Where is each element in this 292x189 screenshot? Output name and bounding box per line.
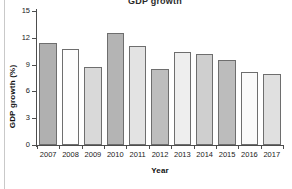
page-edge-rule	[4, 0, 5, 189]
x-tick-mark	[126, 145, 127, 149]
x-tick-label: 2016	[238, 151, 260, 159]
x-tick-mark	[238, 145, 239, 149]
bars-group	[37, 11, 283, 145]
x-axis-line	[36, 145, 284, 146]
x-tick-label: 2011	[126, 151, 148, 159]
x-tick-mark	[59, 145, 60, 149]
x-tick-mark	[216, 145, 217, 149]
x-tick-label: 2015	[216, 151, 238, 159]
y-tick-mark	[32, 38, 36, 39]
x-tick-label: 2008	[59, 151, 81, 159]
bar	[196, 54, 213, 145]
x-tick-mark	[171, 145, 172, 149]
y-tick-mark	[32, 145, 36, 146]
bar	[129, 46, 146, 145]
chart-figure: GDP growth 03691215 20072008200920102011…	[0, 0, 292, 189]
x-tick-mark	[261, 145, 262, 149]
y-tick-mark	[32, 118, 36, 119]
x-axis-label: Year	[36, 166, 284, 175]
bar	[84, 67, 101, 145]
x-tick-label: 2012	[149, 151, 171, 159]
y-tick-mark	[32, 11, 36, 12]
y-axis-label: GDP growth (%)	[8, 47, 17, 147]
y-tick-mark	[32, 65, 36, 66]
bar	[107, 33, 124, 145]
x-tick-mark	[283, 145, 284, 149]
bar	[263, 74, 280, 145]
x-tick-label: 2013	[171, 151, 193, 159]
y-tick-label: 15	[0, 7, 30, 14]
x-tick-mark	[37, 145, 38, 149]
y-axis-label-holder: GDP growth (%)	[8, 40, 22, 120]
x-tick-label: 2007	[37, 151, 59, 159]
x-tick-mark	[149, 145, 150, 149]
y-tick-mark	[32, 91, 36, 92]
x-tick-label: 2017	[261, 151, 283, 159]
x-tick-label: 2010	[104, 151, 126, 159]
x-tick-mark	[82, 145, 83, 149]
bar	[62, 49, 79, 145]
bar	[151, 69, 168, 145]
x-tick-mark	[104, 145, 105, 149]
x-tick-label: 2014	[194, 151, 216, 159]
x-tick-label: 2009	[82, 151, 104, 159]
bar	[218, 60, 235, 145]
bar	[174, 52, 191, 145]
bar	[39, 43, 56, 145]
chart-title-clipped: GDP growth	[40, 0, 270, 6]
x-tick-mark	[194, 145, 195, 149]
bar	[241, 72, 258, 145]
